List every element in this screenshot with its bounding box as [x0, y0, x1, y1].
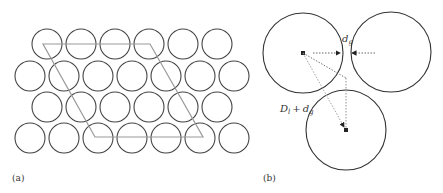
- packed-circle: [151, 123, 181, 153]
- packed-circle: [117, 123, 147, 153]
- packed-circle: [168, 92, 198, 122]
- center-dot-bottom: [344, 128, 348, 132]
- figure-canvas: (a) dg Dl+dg (b): [0, 0, 443, 193]
- packed-circle: [15, 123, 45, 153]
- panel-a-packing-diagram: (a): [12, 29, 249, 183]
- packed-circle: [202, 92, 232, 122]
- panel-a-label: (a): [12, 173, 24, 183]
- gap-label: dg: [342, 33, 353, 46]
- packed-circle: [168, 29, 198, 59]
- panel-b-label: (b): [263, 173, 276, 183]
- packed-circle: [151, 61, 181, 91]
- packed-circle: [185, 61, 215, 91]
- packed-circle: [83, 61, 113, 91]
- packed-circle: [15, 61, 45, 91]
- packed-circle: [117, 61, 147, 91]
- packed-circle: [134, 92, 164, 122]
- packed-circle: [185, 123, 215, 153]
- packed-circle: [100, 92, 130, 122]
- packed-circle: [219, 61, 249, 91]
- packed-circle: [202, 29, 232, 59]
- panel-b-spacing-diagram: dg Dl+dg (b): [263, 12, 431, 183]
- packed-circle: [66, 92, 96, 122]
- spacing-circle-2: [351, 12, 431, 92]
- distance-label: Dl+dg: [279, 103, 314, 116]
- packed-circles: [15, 29, 249, 153]
- packed-circle: [219, 123, 249, 153]
- packed-circle: [49, 123, 79, 153]
- packed-circle: [32, 92, 62, 122]
- dotted-path-diagonal: [303, 53, 346, 78]
- packed-circle: [49, 61, 79, 91]
- packed-circle: [83, 123, 113, 153]
